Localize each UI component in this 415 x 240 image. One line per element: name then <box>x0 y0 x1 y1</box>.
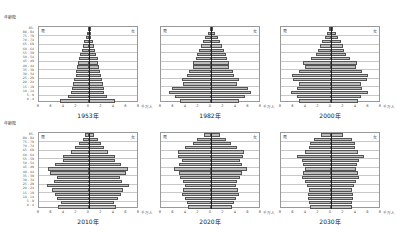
age-label: 55 - 59 <box>23 52 34 55</box>
bar-female <box>89 40 93 43</box>
bar-male <box>72 87 89 90</box>
bar-female <box>211 70 233 73</box>
x-axis-ticks: 864202468 <box>160 104 260 110</box>
x-tick-label: 6 <box>49 104 51 108</box>
age-label: 15 - 19 <box>23 86 34 89</box>
x-tick-label: 8 <box>279 104 281 108</box>
bar-female <box>211 176 240 179</box>
x-axis-unit: 千万人 <box>383 104 395 109</box>
x-tick-label: 2 <box>74 104 76 108</box>
bar-female <box>211 49 224 52</box>
bar-female <box>331 176 359 179</box>
center-axis <box>89 27 90 103</box>
age-label: 30 - 34 <box>23 179 34 182</box>
x-tick-label: 6 <box>49 210 51 214</box>
x-tick-label: 8 <box>137 104 139 108</box>
age-label: 60 - 64 <box>23 154 34 157</box>
bar-female <box>331 197 353 200</box>
male-label: 男 <box>41 134 45 140</box>
age-label: 50 - 54 <box>23 162 34 165</box>
bar-female <box>331 95 361 98</box>
bar-female <box>89 197 118 200</box>
bar-male <box>314 138 331 141</box>
age-label: 80 - 84 <box>23 31 34 34</box>
bar-male <box>320 44 331 47</box>
chart-title-year: 1982年 <box>160 111 260 120</box>
bar-female <box>89 201 114 204</box>
bar-female <box>331 82 361 85</box>
bar-male <box>299 70 331 73</box>
bar-female <box>89 146 104 149</box>
bar-male <box>58 205 89 208</box>
age-label: 70 - 74 <box>23 145 34 148</box>
bar-female <box>89 163 121 166</box>
bar-male <box>189 70 211 73</box>
bar-male <box>183 188 211 191</box>
bar-male <box>303 163 331 166</box>
x-tick-label: 6 <box>171 210 173 214</box>
x-tick-label: 4 <box>234 210 236 214</box>
age-label: 40 - 44 <box>23 65 34 68</box>
bar-female <box>331 49 344 52</box>
bar-female <box>211 171 242 174</box>
age-label: 20 - 24 <box>23 187 34 190</box>
age-label: 35 - 39 <box>23 69 34 72</box>
x-axis-ticks: 864202468 <box>280 210 380 216</box>
chart-title-year: 2000年 <box>280 111 380 120</box>
bar-male <box>75 146 89 149</box>
bar-male <box>182 193 211 196</box>
bar-male <box>197 138 211 141</box>
bar-female <box>211 167 247 170</box>
x-axis-unit: 千万人 <box>383 210 395 215</box>
bar-male <box>63 159 89 162</box>
bar-female <box>211 142 231 145</box>
bar-male <box>299 99 331 102</box>
bar-female <box>89 205 116 208</box>
bar-female <box>331 61 357 64</box>
x-tick-label: 2 <box>74 210 76 214</box>
bar-female <box>89 74 101 77</box>
bar-female <box>331 205 352 208</box>
bar-female <box>211 99 239 102</box>
x-tick-label: 2 <box>99 104 101 108</box>
bar-male <box>57 176 89 179</box>
center-axis <box>211 27 212 103</box>
bar-male <box>55 163 89 166</box>
plot-frame: 男女 <box>38 132 138 208</box>
bar-male <box>185 146 211 149</box>
age-label: 75 - 79 <box>23 141 34 144</box>
center-axis <box>211 133 212 209</box>
bar-female <box>331 44 343 47</box>
bar-female <box>331 180 356 183</box>
bar-male <box>316 53 331 56</box>
male-label: 男 <box>283 134 287 140</box>
bar-female <box>89 142 101 145</box>
bar-female <box>331 146 355 149</box>
bar-female <box>211 188 238 191</box>
x-tick-label: 2 <box>99 210 101 214</box>
female-label: 女 <box>131 134 135 140</box>
male-label: 男 <box>283 28 287 34</box>
x-tick-label: 6 <box>366 104 368 108</box>
bar-male <box>48 167 89 170</box>
bar-male <box>309 188 331 191</box>
center-axis <box>89 133 90 209</box>
bar-male <box>52 188 89 191</box>
bar-male <box>305 150 331 153</box>
bar-female <box>89 91 104 94</box>
bar-male <box>292 74 331 77</box>
bar-female <box>211 87 248 90</box>
bar-male <box>307 184 331 187</box>
bar-male <box>297 87 331 90</box>
x-tick-label: 0 <box>209 210 211 214</box>
bar-female <box>331 188 352 191</box>
x-tick-label: 8 <box>159 210 161 214</box>
bar-male <box>302 176 331 179</box>
x-tick-label: 4 <box>112 104 114 108</box>
x-tick-label: 8 <box>259 104 261 108</box>
bar-male <box>179 163 211 166</box>
bar-male <box>55 193 89 196</box>
bar-female <box>89 65 99 68</box>
age-label: 25 - 29 <box>23 183 34 186</box>
bar-female <box>211 32 215 35</box>
